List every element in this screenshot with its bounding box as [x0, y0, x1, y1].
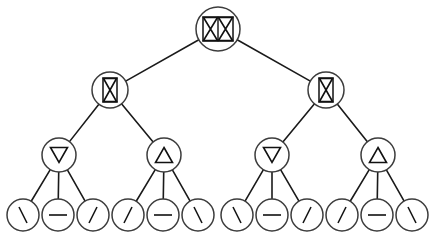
- tree-node-leaf-1[interactable]: \: [7, 199, 39, 231]
- tree-node-leaf-4[interactable]: /: [112, 199, 144, 231]
- tree-node-leaf-7[interactable]: \: [221, 199, 253, 231]
- tree-node-level3-3[interactable]: ∇: [255, 138, 289, 172]
- nodes-layer: XXXX∇Δ∇Δ\−//−\\−//−\: [7, 7, 428, 231]
- diagram-canvas: XXXX∇Δ∇Δ\−//−\\−//−\: [0, 0, 434, 239]
- tree-edge: [245, 170, 263, 201]
- tree-edge: [69, 104, 98, 141]
- tree-diagram: XXXX∇Δ∇Δ\−//−\\−//−\: [0, 0, 434, 239]
- tree-node-leaf-11[interactable]: −: [361, 199, 393, 231]
- tree-edge: [136, 170, 155, 202]
- tree-edge: [350, 170, 369, 202]
- tree-node-level3-1[interactable]: ∇: [42, 138, 76, 172]
- tree-edge: [337, 104, 367, 142]
- tree-edge: [386, 170, 404, 201]
- tree-edge: [67, 170, 85, 201]
- tree-node-leaf-8[interactable]: −: [256, 199, 288, 231]
- tree-edge: [283, 104, 315, 142]
- node-circle-level3-1: [42, 138, 76, 172]
- tree-node-level2-left[interactable]: X: [92, 72, 128, 108]
- tree-edge: [237, 40, 310, 81]
- tree-node-level3-2[interactable]: Δ: [147, 138, 181, 172]
- tree-node-leaf-3[interactable]: /: [77, 199, 109, 231]
- tree-node-root[interactable]: XX: [196, 7, 240, 51]
- tree-node-leaf-9[interactable]: /: [291, 199, 323, 231]
- node-circle-level3-2: [147, 138, 181, 172]
- tree-node-leaf-5[interactable]: −: [147, 199, 179, 231]
- node-circle-level3-3: [255, 138, 289, 172]
- tree-node-leaf-10[interactable]: /: [326, 199, 358, 231]
- tree-edge: [281, 170, 299, 201]
- tree-edge: [31, 170, 50, 202]
- tree-node-leaf-12[interactable]: \: [396, 199, 428, 231]
- tree-edge: [122, 104, 154, 142]
- tree-node-level2-right[interactable]: X: [308, 72, 344, 108]
- node-circle-level3-4: [361, 138, 395, 172]
- tree-edge: [126, 40, 199, 81]
- tree-node-leaf-6[interactable]: \: [182, 199, 214, 231]
- tree-node-level3-4[interactable]: Δ: [361, 138, 395, 172]
- edges-layer: [31, 40, 404, 201]
- tree-node-leaf-2[interactable]: −: [42, 199, 74, 231]
- tree-edge: [172, 170, 190, 201]
